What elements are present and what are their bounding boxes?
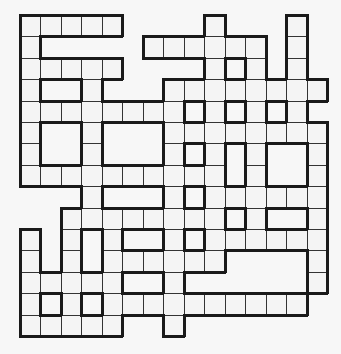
grid-cell[interactable]: [266, 293, 287, 315]
grid-cell[interactable]: [163, 36, 184, 58]
grid-cell[interactable]: [40, 315, 61, 337]
grid-cell[interactable]: [20, 101, 41, 123]
grid-cell[interactable]: [225, 36, 246, 58]
grid-cell[interactable]: [20, 315, 41, 337]
grid-cell[interactable]: [225, 186, 246, 208]
grid-cell[interactable]: [81, 208, 102, 230]
grid-cell[interactable]: [307, 79, 328, 101]
grid-cell[interactable]: [61, 58, 82, 80]
grid-cell[interactable]: [266, 79, 287, 101]
grid-cell[interactable]: [20, 36, 41, 58]
grid-cell[interactable]: [81, 79, 102, 101]
grid-cell[interactable]: [81, 165, 102, 187]
grid-cell[interactable]: [81, 58, 102, 80]
grid-cell[interactable]: [225, 229, 246, 251]
grid-cell[interactable]: [163, 208, 184, 230]
grid-cell[interactable]: [245, 36, 266, 58]
grid-cell[interactable]: [122, 293, 143, 315]
grid-cell[interactable]: [102, 272, 123, 294]
grid-cell[interactable]: [307, 186, 328, 208]
grid-cell[interactable]: [204, 79, 225, 101]
grid-cell[interactable]: [307, 250, 328, 272]
grid-cell[interactable]: [286, 58, 307, 80]
grid-cell[interactable]: [20, 229, 41, 251]
grid-cell[interactable]: [61, 101, 82, 123]
grid-cell[interactable]: [225, 122, 246, 144]
grid-cell[interactable]: [20, 293, 41, 315]
grid-cell[interactable]: [184, 165, 205, 187]
grid-cell[interactable]: [245, 208, 266, 230]
grid-cell[interactable]: [204, 143, 225, 165]
grid-cell[interactable]: [122, 165, 143, 187]
grid-cell[interactable]: [40, 101, 61, 123]
grid-cell[interactable]: [102, 293, 123, 315]
grid-cell[interactable]: [143, 101, 164, 123]
grid-cell[interactable]: [163, 293, 184, 315]
grid-cell[interactable]: [245, 58, 266, 80]
grid-cell[interactable]: [61, 15, 82, 37]
grid-cell[interactable]: [61, 208, 82, 230]
grid-cell[interactable]: [143, 293, 164, 315]
grid-cell[interactable]: [245, 293, 266, 315]
grid-cell[interactable]: [266, 229, 287, 251]
grid-cell[interactable]: [286, 229, 307, 251]
grid-cell[interactable]: [61, 229, 82, 251]
grid-cell[interactable]: [163, 101, 184, 123]
grid-cell[interactable]: [163, 272, 184, 294]
grid-cell[interactable]: [61, 250, 82, 272]
grid-cell[interactable]: [204, 293, 225, 315]
grid-cell[interactable]: [102, 250, 123, 272]
grid-cell[interactable]: [245, 165, 266, 187]
grid-cell[interactable]: [286, 101, 307, 123]
grid-cell[interactable]: [307, 229, 328, 251]
grid-cell[interactable]: [307, 143, 328, 165]
grid-cell[interactable]: [225, 293, 246, 315]
grid-cell[interactable]: [102, 229, 123, 251]
grid-cell[interactable]: [184, 122, 205, 144]
grid-cell[interactable]: [245, 143, 266, 165]
grid-cell[interactable]: [143, 165, 164, 187]
grid-cell[interactable]: [204, 101, 225, 123]
grid-cell[interactable]: [184, 293, 205, 315]
grid-cell[interactable]: [102, 58, 123, 80]
grid-cell[interactable]: [20, 143, 41, 165]
grid-cell[interactable]: [163, 186, 184, 208]
grid-cell[interactable]: [204, 208, 225, 230]
grid-cell[interactable]: [61, 315, 82, 337]
grid-cell[interactable]: [20, 272, 41, 294]
grid-cell[interactable]: [163, 229, 184, 251]
grid-cell[interactable]: [102, 208, 123, 230]
grid-cell[interactable]: [286, 186, 307, 208]
grid-cell[interactable]: [20, 122, 41, 144]
grid-cell[interactable]: [204, 36, 225, 58]
grid-cell[interactable]: [286, 293, 307, 315]
grid-cell[interactable]: [102, 15, 123, 37]
grid-cell[interactable]: [163, 250, 184, 272]
grid-cell[interactable]: [266, 186, 287, 208]
grid-cell[interactable]: [20, 79, 41, 101]
grid-cell[interactable]: [163, 122, 184, 144]
grid-cell[interactable]: [81, 15, 102, 37]
grid-cell[interactable]: [245, 122, 266, 144]
grid-cell[interactable]: [143, 36, 164, 58]
grid-cell[interactable]: [184, 208, 205, 230]
grid-cell[interactable]: [81, 143, 102, 165]
grid-cell[interactable]: [81, 186, 102, 208]
grid-cell[interactable]: [204, 250, 225, 272]
grid-cell[interactable]: [163, 143, 184, 165]
grid-cell[interactable]: [20, 165, 41, 187]
grid-cell[interactable]: [122, 208, 143, 230]
grid-cell[interactable]: [81, 315, 102, 337]
grid-cell[interactable]: [204, 15, 225, 37]
grid-cell[interactable]: [184, 79, 205, 101]
grid-cell[interactable]: [20, 250, 41, 272]
grid-cell[interactable]: [163, 315, 184, 337]
grid-cell[interactable]: [286, 15, 307, 37]
grid-cell[interactable]: [61, 165, 82, 187]
grid-cell[interactable]: [102, 315, 123, 337]
grid-cell[interactable]: [266, 122, 287, 144]
grid-cell[interactable]: [40, 58, 61, 80]
grid-cell[interactable]: [20, 58, 41, 80]
grid-cell[interactable]: [245, 186, 266, 208]
grid-cell[interactable]: [143, 250, 164, 272]
